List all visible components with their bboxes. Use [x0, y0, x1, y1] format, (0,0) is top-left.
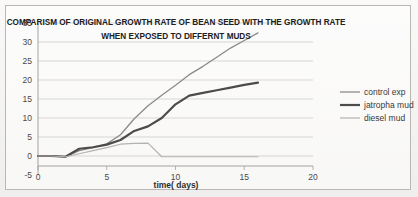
y-tick-label: 25 — [23, 56, 33, 66]
y-tick-label: 20 — [23, 75, 33, 85]
chart-title-line2: WHEN EXPOSED TO DIFFERNT MUDS — [101, 32, 251, 41]
y-tick-label: 5 — [27, 132, 32, 142]
series-line-control-exp — [38, 33, 258, 157]
legend-label-diesel-mud: diesel mud — [364, 113, 405, 123]
x-axis-tick-marks — [38, 166, 313, 170]
x-tick-label: 20 — [308, 172, 318, 182]
x-tick-label: 5 — [104, 172, 109, 182]
y-tick-label: 10 — [23, 113, 33, 123]
y-tick-label: -5 — [24, 170, 32, 180]
y-tick-label: 0 — [27, 151, 32, 161]
x-tick-label: 0 — [36, 172, 41, 182]
gridlines-group — [38, 23, 313, 156]
chart-screenshot: -505101520253035 05101520 COMPARISM OF O… — [0, 0, 418, 197]
data-series-group — [38, 33, 258, 157]
series-line-jatropha-mud — [38, 83, 258, 157]
y-tick-label: 30 — [23, 37, 33, 47]
legend-label-control-exp: control exp — [364, 87, 406, 97]
y-axis-tick-labels: -505101520253035 — [23, 18, 33, 180]
chart-legend: control expjatropha muddiesel mud — [340, 87, 414, 123]
legend-label-jatropha-mud: jatropha mud — [363, 100, 414, 110]
y-tick-label: 15 — [23, 94, 33, 104]
chart-title-line1: COMPARISM OF ORIGINAL GROWTH RATE OF BEA… — [7, 18, 346, 27]
line-chart: -505101520253035 05101520 COMPARISM OF O… — [0, 0, 418, 197]
x-axis-title: time( days) — [154, 180, 199, 190]
x-tick-label: 15 — [240, 172, 250, 182]
